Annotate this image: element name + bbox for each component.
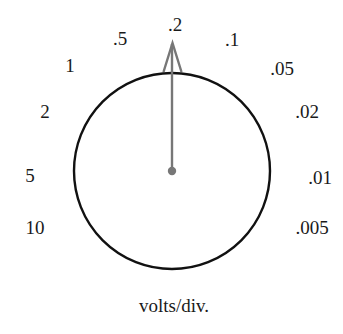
setting-label-1[interactable]: 1 bbox=[65, 55, 75, 76]
setting-label-0.01[interactable]: .01 bbox=[308, 167, 332, 188]
setting-label-5[interactable]: 5 bbox=[25, 165, 35, 186]
setting-label-0.1[interactable]: .1 bbox=[225, 29, 239, 50]
setting-label-10[interactable]: 10 bbox=[26, 217, 45, 238]
setting-label-2[interactable]: 2 bbox=[40, 101, 50, 122]
dial-pointer bbox=[164, 43, 182, 175]
setting-label-0.02[interactable]: .02 bbox=[295, 101, 319, 122]
setting-label-0.05[interactable]: .05 bbox=[270, 58, 294, 79]
pointer-pivot-dot bbox=[168, 167, 176, 175]
setting-label-0.2[interactable]: .2 bbox=[168, 14, 182, 35]
setting-label-0.5[interactable]: .5 bbox=[113, 28, 127, 49]
dial-caption: volts/div. bbox=[139, 295, 209, 316]
volts-per-div-dial[interactable]: .5 .2 .1 1 .05 2 .02 5 .01 10 .005 volts… bbox=[0, 0, 343, 334]
setting-label-0.005[interactable]: .005 bbox=[295, 217, 328, 238]
